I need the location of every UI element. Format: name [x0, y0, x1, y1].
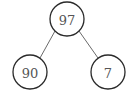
binary-tree-diagram: 97 90 7: [0, 0, 128, 108]
tree-node-root: 97: [50, 2, 84, 36]
edge-root-left: [40, 31, 55, 58]
node-label-root: 97: [59, 13, 76, 28]
tree-node-left: 90: [13, 55, 47, 89]
edge-root-right: [79, 31, 98, 58]
tree-node-right: 7: [91, 55, 125, 89]
node-label-left: 90: [22, 66, 39, 81]
node-label-right: 7: [104, 66, 112, 81]
